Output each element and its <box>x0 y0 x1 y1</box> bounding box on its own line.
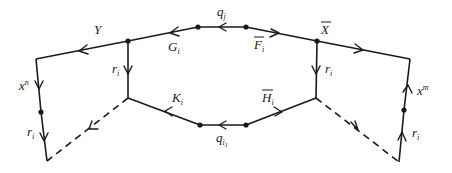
arrow-K-i-icon <box>165 107 172 116</box>
node-top-right <box>243 24 248 29</box>
label-H-bar-i: Hi <box>261 90 274 107</box>
node-Y-junction <box>125 38 130 43</box>
label-q-j: qj <box>217 4 227 21</box>
label-x-m: xm <box>416 83 429 98</box>
label-r-i-right-outer: ri <box>412 125 419 142</box>
label-F-bar-i: Fi <box>253 37 264 54</box>
label-r-i-left-inner: ri <box>112 61 119 78</box>
label-q-i1: qi1 <box>216 130 228 148</box>
edge-left-dashed <box>47 98 128 161</box>
label-G-i: Gi <box>168 39 180 56</box>
node-top-left <box>195 24 200 29</box>
node-right-mid <box>401 107 406 112</box>
edge-K-i <box>128 98 200 125</box>
label-X-bar: X <box>320 22 330 37</box>
arrow-H-bar-icon <box>274 107 282 116</box>
edge-r-i-right-inner <box>316 41 317 98</box>
label-r-i-right-inner: ri <box>325 61 332 78</box>
nodes <box>38 24 406 127</box>
path-diagram: Y Gi qj Fi X ri ri Ki Hi qi1 xn ri xm ri <box>0 0 452 173</box>
node-left-mid <box>38 109 43 114</box>
arrowheads <box>35 23 412 141</box>
node-bottom-left <box>197 122 202 127</box>
labels: Y Gi qj Fi X ri ri Ki Hi qi1 xn ri xm ri <box>18 4 429 148</box>
label-r-i-left-outer: ri <box>27 124 34 141</box>
node-bottom-right <box>243 122 248 127</box>
node-X-junction <box>314 38 319 43</box>
label-K-i: Ki <box>171 90 183 107</box>
label-Y: Y <box>94 22 103 37</box>
arrow-x-m-icon <box>403 85 412 93</box>
label-x-n: xn <box>18 78 29 93</box>
